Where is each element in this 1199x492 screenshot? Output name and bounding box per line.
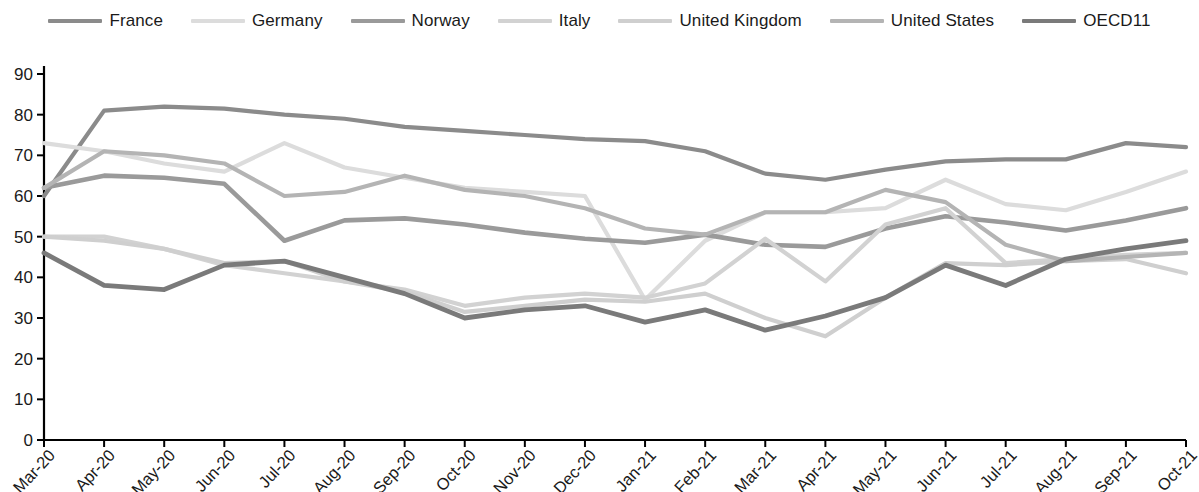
x-tick-label: Aug-21 <box>1031 446 1080 492</box>
legend-item-france[interactable]: France <box>48 11 163 31</box>
y-tick-label: 50 <box>14 228 33 247</box>
chart-legend: FranceGermanyNorwayItalyUnited KingdomUn… <box>0 0 1199 42</box>
legend-item-norway[interactable]: Norway <box>351 11 470 31</box>
legend-item-italy[interactable]: Italy <box>498 11 591 31</box>
legend-item-label: Norway <box>412 11 470 31</box>
y-tick-label: 20 <box>14 350 33 369</box>
x-tick-label: May-21 <box>849 446 900 492</box>
y-tick-label: 40 <box>14 268 33 287</box>
x-tick-label: Feb-21 <box>671 446 720 492</box>
legend-item-germany[interactable]: Germany <box>191 11 323 31</box>
x-tick-label: Sep-20 <box>369 446 418 492</box>
x-tick-label: Apr-21 <box>793 446 840 492</box>
line-chart: FranceGermanyNorwayItalyUnited KingdomUn… <box>0 0 1199 492</box>
y-tick-label: 60 <box>14 187 33 206</box>
y-tick-label: 30 <box>14 309 33 328</box>
legend-item-label: United States <box>891 11 994 31</box>
x-tick-label: May-20 <box>128 446 179 492</box>
legend-swatch-icon <box>1022 19 1076 23</box>
x-tick-label: Mar-20 <box>9 446 58 492</box>
x-tick-label: Jul-20 <box>255 446 299 491</box>
legend-swatch-icon <box>498 19 552 23</box>
legend-swatch-icon <box>191 19 245 23</box>
legend-item-oecd11[interactable]: OECD11 <box>1022 11 1150 31</box>
legend-item-united-kingdom[interactable]: United Kingdom <box>618 11 801 31</box>
axis-lines <box>37 66 1186 447</box>
series-line-norway[interactable] <box>44 176 1186 247</box>
y-tick-label: 70 <box>14 146 33 165</box>
legend-item-label: United Kingdom <box>679 11 801 31</box>
y-tick-label: 0 <box>24 431 33 450</box>
x-tick-label: Mar-21 <box>731 446 780 492</box>
x-tick-label: Jun-20 <box>191 446 239 492</box>
series-line-oecd11[interactable] <box>44 241 1186 330</box>
x-tick-label: Sep-21 <box>1091 446 1140 492</box>
x-tick-label: Nov-20 <box>490 446 539 492</box>
x-tick-label: Jan-21 <box>612 446 660 492</box>
x-tick-label: Jul-21 <box>976 446 1020 491</box>
data-series-group <box>44 107 1186 337</box>
y-tick-label: 80 <box>14 106 33 125</box>
legend-item-label: Germany <box>252 11 323 31</box>
x-tick-label: Jun-21 <box>912 446 960 492</box>
legend-swatch-icon <box>48 19 102 23</box>
plot-svg: 0102030405060708090 Mar-20Apr-20May-20Ju… <box>0 42 1199 492</box>
x-tick-label: Apr-20 <box>71 446 118 492</box>
legend-swatch-icon <box>618 19 672 23</box>
y-tick-label: 10 <box>14 390 33 409</box>
legend-item-united-states[interactable]: United States <box>830 11 994 31</box>
y-tick-label: 90 <box>14 65 33 84</box>
x-tick-label: Dec-20 <box>550 446 599 492</box>
plot-area: 0102030405060708090 Mar-20Apr-20May-20Ju… <box>0 42 1199 492</box>
x-tick-label: Aug-20 <box>309 446 358 492</box>
x-axis-tick-labels: Mar-20Apr-20May-20Jun-20Jul-20Aug-20Sep-… <box>9 446 1199 492</box>
x-tick-label: Oct-21 <box>1153 446 1199 492</box>
legend-item-label: France <box>109 11 163 31</box>
legend-swatch-icon <box>351 19 405 23</box>
legend-swatch-icon <box>830 19 884 23</box>
legend-item-label: Italy <box>559 11 591 31</box>
x-tick-label: Oct-20 <box>432 446 479 492</box>
y-axis-tick-labels: 0102030405060708090 <box>14 65 33 450</box>
legend-item-label: OECD11 <box>1083 11 1150 31</box>
